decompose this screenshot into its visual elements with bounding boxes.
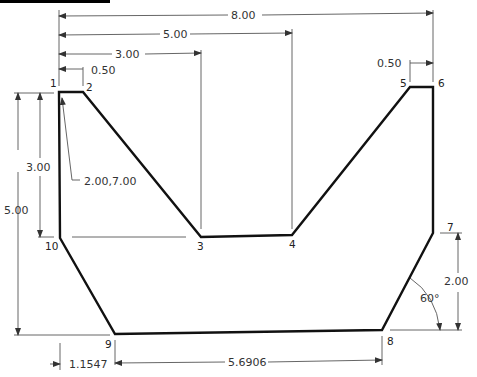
svg-text:5.00: 5.00 <box>163 28 188 41</box>
svg-text:2.00: 2.00 <box>444 275 469 288</box>
svg-text:3.00: 3.00 <box>26 161 51 174</box>
svg-text:5.00: 5.00 <box>4 204 29 217</box>
svg-text:3: 3 <box>197 240 204 252</box>
svg-text:2.00,7.00: 2.00,7.00 <box>84 175 136 188</box>
svg-text:0.50: 0.50 <box>377 57 402 70</box>
part-outline <box>59 87 433 334</box>
svg-text:10: 10 <box>45 240 58 252</box>
svg-text:3.00: 3.00 <box>115 48 140 61</box>
svg-text:5: 5 <box>400 77 407 89</box>
svg-text:60°: 60° <box>420 292 440 305</box>
svg-text:2: 2 <box>86 81 93 93</box>
svg-text:8.00: 8.00 <box>231 9 256 22</box>
svg-text:9: 9 <box>105 338 112 350</box>
cad-drawing: 8.00 5.00 3.00 0.50 0.50 3.00 5.00 2.00 … <box>0 0 477 377</box>
svg-text:4: 4 <box>289 238 296 250</box>
svg-text:7: 7 <box>447 221 454 233</box>
dimension-labels: 8.00 5.00 3.00 0.50 0.50 3.00 5.00 2.00 … <box>4 9 469 371</box>
svg-text:6: 6 <box>438 77 445 89</box>
svg-text:1: 1 <box>50 77 57 89</box>
svg-text:1.1547: 1.1547 <box>69 358 108 371</box>
svg-text:8: 8 <box>387 335 394 347</box>
svg-text:5.6906: 5.6906 <box>228 356 267 369</box>
svg-text:0.50: 0.50 <box>91 64 116 77</box>
